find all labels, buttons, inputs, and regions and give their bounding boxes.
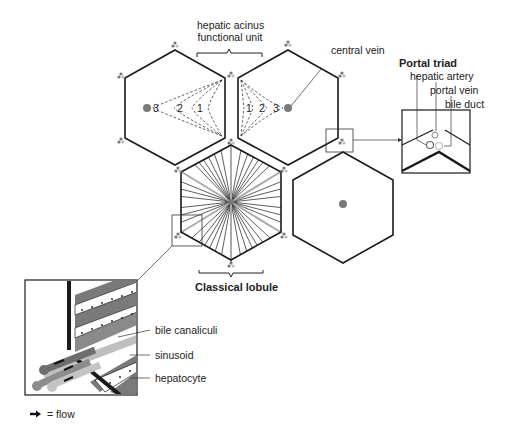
acinus-label-line1: hepatic acinus <box>197 19 263 31</box>
bile-canaliculi-label: bile canaliculi <box>155 324 217 336</box>
portal-triad-magnifier-box <box>326 129 353 152</box>
central-vein-label: central vein <box>331 44 385 56</box>
zone-right-1: 1 <box>246 102 252 114</box>
acinus-brace <box>197 49 262 57</box>
bile-duct-label: bile duct <box>445 98 484 110</box>
zone-left-1: 1 <box>197 102 203 114</box>
zone-left-3: 3 <box>153 102 159 114</box>
left-hexagon <box>125 50 225 165</box>
portal-triad-title: Portal triad <box>399 57 457 69</box>
acinus-label-line2: functional unit <box>196 31 264 43</box>
classical-lobule-hexagon <box>177 143 285 277</box>
bottom-right-hexagon <box>293 152 393 263</box>
flow-legend-label: = flow <box>47 408 75 420</box>
central-vein-pointer <box>291 68 322 106</box>
sinusoid-label: sinusoid <box>155 349 194 361</box>
flow-arrow-icon <box>30 411 41 418</box>
sinusoid-inset <box>25 268 150 395</box>
hepatocyte-label: hepatocyte <box>155 372 206 384</box>
right-hexagon <box>238 50 338 165</box>
central-vein-dot-right <box>284 104 292 112</box>
portal-vein-label: portal vein <box>430 84 478 96</box>
zone-right-3: 3 <box>273 102 279 114</box>
classical-lobule-label: Classical lobule <box>195 281 278 293</box>
zone-left-2: 2 <box>177 102 183 114</box>
central-vein-dot-left <box>143 104 151 112</box>
hepatic-artery-label: hepatic artery <box>410 70 474 82</box>
zone-right-2: 2 <box>259 102 265 114</box>
